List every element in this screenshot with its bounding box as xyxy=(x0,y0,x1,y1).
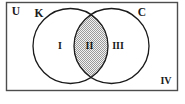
universe-label: U xyxy=(12,5,21,17)
region-label-iii: III xyxy=(112,40,124,51)
region-label-i: I xyxy=(58,40,62,51)
region-label-iv: IV xyxy=(160,75,172,86)
set-label-c: C xyxy=(138,6,146,18)
region-label-ii: II xyxy=(86,40,94,51)
set-label-k: K xyxy=(35,7,44,19)
venn-diagram-figure: U K C I II III IV xyxy=(0,0,185,104)
venn-diagram-canvas: U K C I II III IV xyxy=(0,0,185,104)
